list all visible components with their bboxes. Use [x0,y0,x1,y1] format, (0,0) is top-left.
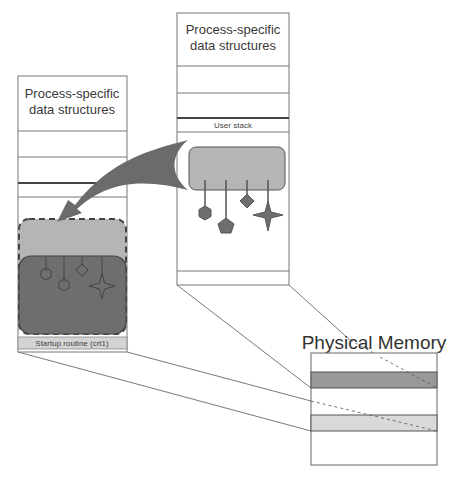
startup-routine-label: Startup routine (crt1) [35,339,109,348]
right-title-line1: Process-specific [186,22,281,37]
physical-frame-program [311,372,437,388]
right-title-line2: data structures [190,38,276,53]
physical-memory: Physical Memory [302,332,447,465]
hexagon-icon [199,206,211,220]
left-title-line1: Process-specific [25,86,120,101]
physical-memory-title: Physical Memory [302,332,447,353]
left-title-line2: data structures [29,102,115,117]
program-image-region [19,256,126,334]
shared-library-block [189,147,285,190]
user-stack-label: User stack [214,121,253,130]
diagram-canvas: Process-specific data structures User st… [0,0,454,482]
physical-frame-library [311,415,437,431]
right-process-address-space: Process-specific data structures User st… [177,13,289,285]
